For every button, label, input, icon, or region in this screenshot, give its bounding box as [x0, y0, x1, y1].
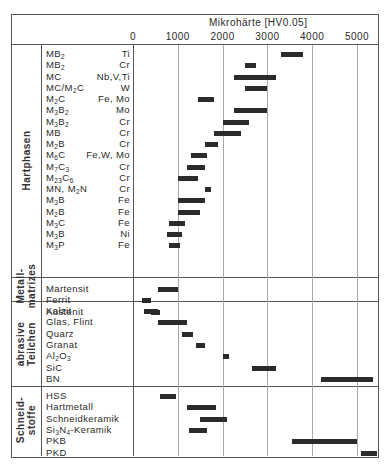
- range-bar: [191, 153, 207, 158]
- row-label: Ferrit: [46, 294, 71, 305]
- row-label: PKD: [46, 447, 67, 458]
- row-label: M2C: [46, 93, 66, 104]
- row-label: M7C3: [46, 161, 70, 172]
- range-bar: [223, 120, 250, 125]
- row-label: M3B: [46, 228, 65, 239]
- row-label: PKB: [46, 435, 66, 446]
- row-element: Cr: [119, 59, 130, 70]
- range-bar: [158, 320, 187, 325]
- row-element: Nb,V,Ti: [97, 71, 130, 82]
- row-label: MC: [46, 71, 62, 82]
- row-element: W: [121, 82, 130, 93]
- gridline: [357, 45, 358, 456]
- range-bar: [200, 417, 227, 422]
- header-divider: [11, 44, 378, 45]
- row-label: Hartmetall: [46, 401, 93, 412]
- group-label-line: Hartphasen: [21, 131, 32, 191]
- row-label: Quarz: [46, 328, 74, 339]
- x-tick-label: 3000: [255, 31, 279, 42]
- row-label: M3B: [46, 194, 65, 205]
- row-label: Glas, Flint: [46, 316, 93, 327]
- row-label: M3P: [46, 239, 65, 250]
- range-bar: [205, 142, 218, 147]
- range-bar: [142, 298, 151, 303]
- range-bar: [160, 394, 176, 399]
- range-bar: [198, 97, 214, 102]
- range-bar: [361, 451, 377, 456]
- x-tick-label: 5000: [345, 31, 369, 42]
- row-element: Fe, Mo: [98, 93, 130, 104]
- group-label-line: stoffe: [26, 390, 37, 450]
- range-bar: [182, 332, 193, 337]
- range-bar: [178, 176, 198, 181]
- x-tick-label: 0: [130, 31, 136, 42]
- row-label: Martensit: [46, 283, 89, 294]
- row-label: MB2: [46, 59, 65, 70]
- row-element: Fe: [118, 194, 130, 205]
- row-element: Cr: [119, 172, 130, 183]
- row-element: Cr: [119, 138, 130, 149]
- row-label: MC/M2C: [46, 82, 84, 93]
- range-bar: [144, 309, 157, 314]
- group-label-schneidstoffe: Schneid- stoffe: [15, 390, 37, 450]
- group-label-line: abrasive: [15, 314, 26, 374]
- row-element: Ni: [120, 228, 130, 239]
- group-divider-3: [11, 386, 378, 387]
- row-label: Schneidkeramik: [46, 413, 119, 424]
- range-bar: [196, 343, 205, 348]
- row-label: MB2: [46, 48, 65, 59]
- range-bar: [187, 405, 216, 410]
- hardness-range-chart: Mikrohärte [HV0.05] 01000200030004000500…: [0, 0, 385, 469]
- gridline: [267, 45, 268, 456]
- range-bar: [169, 243, 180, 248]
- row-label: M3C: [46, 217, 66, 228]
- range-bar: [234, 108, 268, 113]
- group-label-metallmatrizes: Metall- matrizes: [15, 256, 37, 316]
- row-label: M3B2: [46, 116, 69, 127]
- row-label: M6C: [46, 149, 66, 160]
- range-bar: [292, 439, 357, 444]
- group-label-hartphasen: Hartphasen: [21, 111, 32, 211]
- group-label-line: Metall-: [15, 256, 26, 316]
- row-element: Cr: [119, 116, 130, 127]
- row-element: Cr: [119, 161, 130, 172]
- range-bar: [252, 366, 277, 371]
- group-label-line: matrizes: [26, 256, 37, 316]
- row-label: MB: [46, 127, 61, 138]
- row-element: Fe: [118, 206, 130, 217]
- row-label: MN, M2N: [46, 183, 87, 194]
- row-label: M3B2: [46, 104, 69, 115]
- group-label-line: Schneid-: [15, 390, 26, 450]
- range-bar: [158, 287, 178, 292]
- row-label: Granat: [46, 339, 77, 350]
- group-label-line: Teilchen: [26, 314, 37, 374]
- x-tick-label: 1000: [166, 31, 190, 42]
- range-bar: [281, 52, 303, 57]
- gridline: [312, 45, 313, 456]
- range-bar: [214, 131, 241, 136]
- row-element: Fe,W, Mo: [86, 149, 130, 160]
- range-bar: [234, 75, 277, 80]
- row-label: BN: [46, 373, 60, 384]
- x-tick-label: 4000: [300, 31, 324, 42]
- range-bar: [245, 86, 267, 91]
- row-label: M2B: [46, 138, 65, 149]
- gridline: [223, 45, 224, 456]
- range-bar: [178, 210, 200, 215]
- row-element: Fe: [118, 239, 130, 250]
- row-label: M2B: [46, 206, 65, 217]
- range-bar: [321, 377, 373, 382]
- range-bar: [167, 232, 183, 237]
- row-label: SiC: [46, 362, 63, 373]
- gridline: [178, 45, 179, 456]
- label-column-divider: [133, 44, 134, 456]
- range-bar: [178, 198, 205, 203]
- row-element: Cr: [119, 183, 130, 194]
- row-element: Mo: [116, 104, 130, 115]
- row-element: Cr: [119, 127, 130, 138]
- range-bar: [245, 63, 256, 68]
- range-bar: [189, 428, 207, 433]
- row-label: HSS: [46, 390, 67, 401]
- row-label: M23C6: [46, 172, 74, 183]
- row-label: Al2O3: [46, 350, 71, 361]
